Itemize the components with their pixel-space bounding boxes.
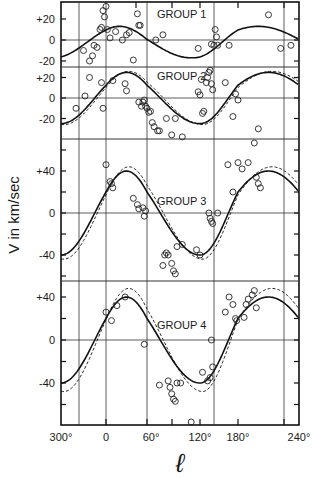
solid-model-curve bbox=[61, 26, 298, 57]
radial-velocity-figure: +200-20+200-20+400-40+400-40 300°060°120… bbox=[0, 0, 312, 478]
y-tick-label: -20 bbox=[39, 113, 55, 125]
data-point bbox=[210, 364, 216, 370]
data-point bbox=[288, 42, 294, 48]
x-tick-label: 240° bbox=[288, 431, 311, 443]
data-point bbox=[169, 132, 175, 138]
data-point bbox=[102, 14, 108, 20]
data-point bbox=[167, 384, 173, 390]
data-point bbox=[124, 88, 130, 94]
data-point bbox=[169, 260, 175, 266]
x-tick-label: 60° bbox=[143, 431, 160, 443]
data-point bbox=[134, 11, 140, 17]
data-point bbox=[109, 318, 115, 324]
data-point bbox=[201, 108, 207, 114]
data-point bbox=[90, 53, 96, 59]
data-point bbox=[122, 81, 128, 87]
data-point bbox=[266, 12, 272, 18]
y-tick-label: -40 bbox=[39, 249, 55, 261]
data-point bbox=[130, 195, 136, 201]
panel-title: GROUP 2 bbox=[157, 70, 206, 82]
data-point bbox=[222, 309, 228, 315]
y-tick-label: +20 bbox=[36, 13, 55, 25]
data-point bbox=[212, 27, 218, 33]
data-point bbox=[160, 32, 166, 38]
data-point bbox=[136, 22, 142, 28]
data-point bbox=[253, 305, 259, 311]
data-point bbox=[100, 105, 106, 111]
data-point bbox=[178, 380, 184, 386]
y-tick-label: +20 bbox=[36, 72, 55, 84]
data-point bbox=[160, 263, 166, 269]
data-point bbox=[207, 67, 213, 73]
data-point bbox=[130, 57, 136, 63]
data-point bbox=[99, 80, 105, 86]
y-tick-label: 0 bbox=[49, 207, 55, 219]
data-point bbox=[81, 48, 87, 54]
panel-title: GROUP 1 bbox=[157, 8, 206, 20]
data-point bbox=[255, 126, 261, 132]
data-point bbox=[239, 166, 245, 172]
data-point bbox=[230, 302, 236, 308]
data-point bbox=[222, 80, 228, 86]
panel-title: GROUP 4 bbox=[157, 319, 206, 331]
data-point bbox=[241, 314, 247, 320]
data-point bbox=[100, 8, 106, 14]
x-tick-labels: 300°060°120°180°240° bbox=[50, 431, 311, 443]
x-axis-label: ℓ bbox=[175, 448, 186, 478]
data-point bbox=[195, 45, 201, 51]
data-point bbox=[137, 22, 143, 28]
x-tick-label: 300° bbox=[50, 431, 73, 443]
y-tick-labels: +200-20+200-20+400-40+400-40 bbox=[36, 13, 55, 389]
data-point bbox=[165, 378, 171, 384]
y-tick-label: -40 bbox=[39, 377, 55, 389]
y-tick-label: +40 bbox=[36, 291, 55, 303]
data-point bbox=[230, 114, 236, 120]
panel-title: GROUP 3 bbox=[157, 195, 206, 207]
y-tick-label: +40 bbox=[36, 165, 55, 177]
y-tick-label: 0 bbox=[49, 92, 55, 104]
data-point bbox=[225, 162, 231, 168]
data-point bbox=[210, 221, 216, 227]
data-point bbox=[245, 160, 251, 166]
y-tick-label: 0 bbox=[49, 34, 55, 46]
y-tick-label: 0 bbox=[49, 334, 55, 346]
data-point bbox=[226, 294, 232, 300]
data-point bbox=[163, 116, 169, 122]
data-point bbox=[230, 189, 236, 195]
data-point bbox=[136, 206, 142, 212]
data-point bbox=[134, 202, 140, 208]
x-tick-label: 180° bbox=[227, 431, 250, 443]
data-point bbox=[235, 160, 241, 166]
x-tick-label: 0 bbox=[103, 431, 109, 443]
data-point bbox=[73, 105, 79, 111]
data-point bbox=[87, 75, 93, 81]
data-point bbox=[156, 382, 162, 388]
data-point bbox=[141, 341, 147, 347]
x-tick-label: 120° bbox=[189, 431, 212, 443]
data-point bbox=[110, 185, 116, 191]
y-axis-label: V in km/sec bbox=[5, 176, 22, 254]
data-point bbox=[210, 87, 216, 93]
data-point bbox=[251, 140, 257, 146]
data-point bbox=[113, 29, 119, 35]
y-tick-label: -20 bbox=[39, 55, 55, 67]
data-point bbox=[188, 419, 194, 425]
data-point bbox=[200, 369, 206, 375]
data-point bbox=[172, 116, 178, 122]
data-point bbox=[226, 42, 232, 48]
data-point bbox=[278, 45, 284, 51]
